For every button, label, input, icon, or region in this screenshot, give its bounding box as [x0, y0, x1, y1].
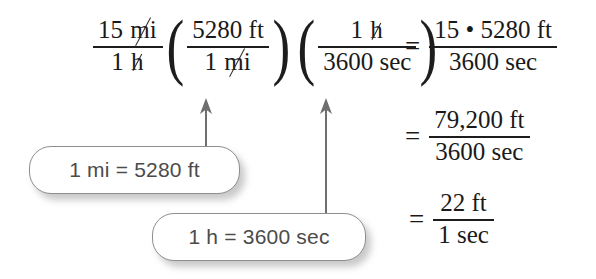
result-fraction-1: 15 • 5280 ft 3600 sec [429, 17, 557, 75]
equals-sign: = [409, 204, 424, 235]
fraction-denominator: 1 h [106, 49, 149, 76]
numerator-value: 5280 [192, 16, 242, 43]
result-row-1: = 15 • 5280 ft 3600 sec [405, 17, 557, 75]
numerator-value: 15 [98, 16, 123, 43]
open-paren-icon: ( [166, 16, 184, 77]
fraction-denominator: 3600 sec [444, 49, 542, 76]
fraction-denominator: 3600 sec [430, 139, 528, 166]
fraction-numerator: 15 • 5280 ft [429, 17, 557, 44]
fraction-numerator: 22 ft [435, 190, 492, 217]
arrow-up-icon-h [315, 97, 337, 217]
fraction-numerator: 5280 ft [187, 17, 269, 44]
fraction-5280ft-per-1mi: 5280 ft 1 mi [187, 17, 269, 75]
numerator-value: 1 [351, 16, 364, 43]
denominator-value: 1 [205, 48, 218, 75]
fraction-denominator: 1 mi [200, 49, 257, 76]
fraction-15mi-per-1h: 15 mi 1 h [93, 17, 163, 75]
open-paren-icon: ( [297, 16, 315, 77]
result-row-3: = 22 ft 1 sec [409, 190, 494, 248]
result-fraction-2: 79,200 ft 3600 sec [429, 107, 529, 165]
arrow-up-icon-mi [195, 97, 217, 149]
close-paren-icon: ) [272, 16, 290, 77]
callout-label: 1 h = 3600 sec [188, 225, 329, 249]
equals-sign: = [405, 121, 420, 152]
main-expression: 15 mi 1 h ( 5280 ft 1 mi ) ( 1 h 3600 se… [93, 16, 441, 77]
denominator-value: 3600 [323, 48, 373, 75]
denominator-unit-cancelled: mi [223, 49, 251, 76]
callout-box-mi-to-ft[interactable]: 1 mi = 5280 ft [29, 146, 240, 194]
fraction-1h-per-3600sec: 1 h 3600 sec [318, 17, 416, 75]
result-row-2: = 79,200 ft 3600 sec [405, 107, 530, 165]
fraction-numerator: 15 mi [93, 17, 163, 44]
result-fraction-3: 22 ft 1 sec [433, 190, 494, 248]
numerator-unit: ft [249, 16, 264, 43]
fraction-denominator: 3600 sec [318, 49, 416, 76]
fraction-numerator: 79,200 ft [429, 107, 529, 134]
figure-canvas: 15 mi 1 h ( 5280 ft 1 mi ) ( 1 h 3600 se… [0, 0, 596, 279]
callout-label: 1 mi = 5280 ft [69, 158, 200, 182]
fraction-denominator: 1 sec [433, 222, 494, 249]
numerator-unit-cancelled: mi [129, 17, 157, 44]
fraction-numerator: 1 h [346, 17, 389, 44]
numerator-unit-cancelled: h [369, 17, 384, 44]
equals-sign: = [405, 31, 420, 62]
denominator-unit-cancelled: h [130, 49, 145, 76]
callout-box-h-to-sec[interactable]: 1 h = 3600 sec [152, 213, 366, 261]
denominator-value: 1 [111, 48, 124, 75]
